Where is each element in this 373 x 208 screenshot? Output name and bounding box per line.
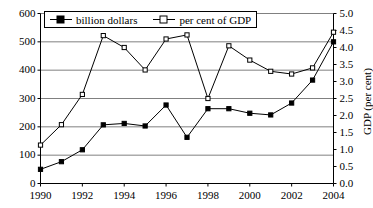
x-axis-tick-label: 2004 xyxy=(314,190,354,201)
left-axis-tick-label: 100 xyxy=(19,149,36,160)
right-axis-tick-label: 4.5 xyxy=(340,25,354,36)
right-axis-tick-label: 1.0 xyxy=(340,144,354,155)
x-axis-tick-label: 2002 xyxy=(272,190,312,201)
left-axis-tick-label: 600 xyxy=(19,8,36,19)
right-axis-tick-label: 5.0 xyxy=(340,8,354,19)
x-axis-tick-label: 1994 xyxy=(104,190,144,201)
x-axis-tick-label: 1998 xyxy=(188,190,228,201)
series-billion-dollars xyxy=(38,40,335,172)
right-axis-tick-label: 0.0 xyxy=(340,178,354,189)
open-square-icon xyxy=(153,15,175,24)
filled-square-icon xyxy=(50,15,72,24)
series-per-cent-of-gdp xyxy=(38,30,335,147)
legend-label-billion-dollars: billion dollars xyxy=(76,14,137,26)
right-axis-tick-label: 2.5 xyxy=(340,93,354,104)
left-axis-tick-label: 300 xyxy=(19,93,36,104)
right-axis-tick-label: 3.0 xyxy=(340,76,354,87)
left-axis-tick-label: 400 xyxy=(19,64,36,75)
left-axis-tick-label: 500 xyxy=(19,36,36,47)
left-axis-tick-label: 0 xyxy=(30,178,36,189)
legend-label-per-cent-of-gdp: per cent of GDP xyxy=(179,14,251,26)
axis-ticks xyxy=(38,14,337,187)
legend-entry-per-cent-of-gdp: per cent of GDP xyxy=(153,14,251,26)
left-axis-tick-label: 200 xyxy=(19,121,36,132)
right-axis-tick-label: 0.5 xyxy=(340,161,354,172)
right-axis-tick-label: 2.0 xyxy=(340,110,354,121)
x-axis-tick-label: 1996 xyxy=(146,190,186,201)
x-axis-tick-label: 1992 xyxy=(62,190,102,201)
x-axis-tick-label: 2000 xyxy=(230,190,270,201)
right-axis-title: GDP (per cent) xyxy=(361,68,373,135)
x-axis-tick-label: 1990 xyxy=(21,190,61,201)
right-axis-tick-label: 4.0 xyxy=(340,42,354,53)
legend-entry-billion-dollars: billion dollars xyxy=(50,14,137,26)
right-axis-tick-label: 3.5 xyxy=(340,59,354,70)
right-axis-tick-label: 1.5 xyxy=(340,127,354,138)
chart-legend: billion dollars per cent of GDP xyxy=(44,11,257,28)
